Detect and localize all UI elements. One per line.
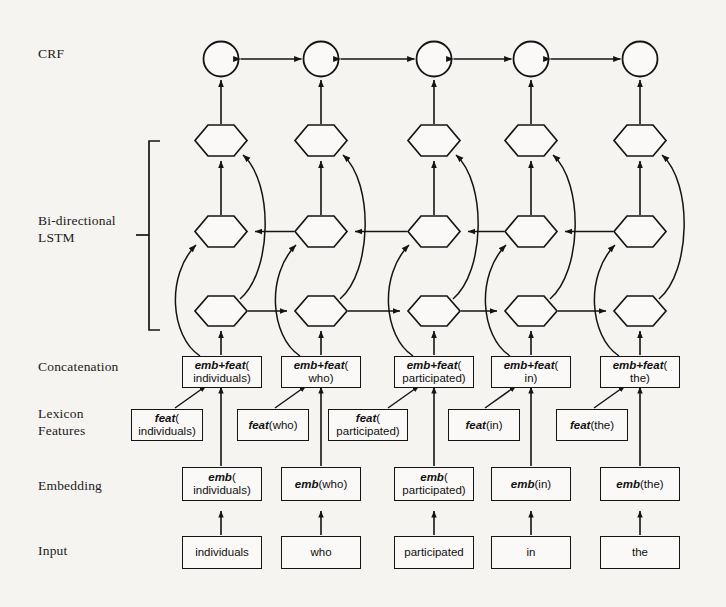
feature-arg-label: the [594,419,610,431]
concat-arg-label: who [309,372,330,384]
concat-arg-label: in [525,372,534,384]
embedding-box[interactable]: emb(the) [600,467,680,501]
concatenation-box[interactable]: emb+feat(in) [491,356,571,388]
diagram-graphics [0,0,726,607]
lstm-backward-node[interactable] [614,216,666,247]
crf-node[interactable] [417,42,452,77]
lstm-top-node[interactable] [505,125,557,156]
embedding-arg-label: participated [402,484,461,496]
embedding-fn-label: emb [420,471,444,483]
embedding-box[interactable]: emb(in) [491,467,571,501]
input-box[interactable]: individuals [182,536,262,569]
figure-canvas: CRF Bi-directional LSTM Concatenation Le… [0,0,726,607]
feature-fn-label: feat [465,419,485,431]
feature-arg-label: individuals [138,425,192,437]
lexicon-feature-box[interactable]: feat(the) [556,409,628,441]
lstm-forward-node[interactable] [408,296,460,326]
concat-fn-label: emb+feat [613,359,664,371]
crf-node[interactable] [304,42,339,77]
lstm-top-node-group [195,125,666,156]
feature-arg-label: participated [336,425,395,437]
embedding-fn-label: emb [295,478,319,490]
embedding-arg-label: individuals [193,484,247,496]
edges-lstm-to-crf [221,80,640,124]
feature-fn-label: feat [248,419,268,431]
feature-arg-label: who [273,419,294,431]
crf-node[interactable] [204,42,239,77]
embedding-arg-label: who [322,478,343,490]
lstm-backward-node[interactable] [505,216,557,247]
input-box[interactable]: participated [394,536,474,569]
lstm-backward-node[interactable] [408,216,460,247]
feature-fn-label: feat [570,419,590,431]
input-box[interactable]: who [281,536,361,569]
feature-fn-label: feat [155,412,175,424]
concat-arg-label: the [630,372,646,384]
feature-fn-label: feat [356,412,376,424]
lstm-backward-node[interactable] [295,216,347,247]
lstm-forward-node[interactable] [505,296,557,326]
lstm-forward-node[interactable] [195,296,247,326]
embedding-fn-label: emb [616,478,640,490]
lstm-forward-node[interactable] [295,296,347,326]
concat-fn-label: emb+feat [504,359,555,371]
concat-fn-label: emb+feat [294,359,345,371]
lexicon-feature-box[interactable]: feat(in) [448,409,520,441]
lexicon-feature-box[interactable]: feat(individuals) [131,409,203,441]
concatenation-box[interactable]: emb+feat(who) [281,356,361,388]
concat-fn-label: emb+feat [195,359,246,371]
concatenation-box[interactable]: emb+feat(the) [600,356,680,388]
edges-concat-to-forward [221,331,640,355]
embedding-box[interactable]: emb(who) [281,467,361,501]
embedding-fn-label: emb [511,478,535,490]
edges-concat-to-backward [175,245,619,356]
embedding-fn-label: emb [208,471,232,483]
lexicon-feature-box[interactable]: feat(participated) [328,409,408,441]
lstm-backward-node[interactable] [195,216,247,247]
lexicon-feature-box[interactable]: feat(who) [237,409,309,441]
input-box[interactable]: in [491,536,571,569]
embedding-arg-label: in [538,478,547,490]
concat-arg-label: individuals [193,372,247,384]
lstm-top-node[interactable] [408,125,460,156]
embedding-box[interactable]: emb(participated) [394,467,474,501]
input-box[interactable]: the [600,536,680,569]
edges-input-to-embedding [221,511,640,535]
embedding-arg-label: the [644,478,660,490]
concat-fn-label: emb+feat [407,359,458,371]
edges-backward-to-top [221,161,640,215]
concatenation-box[interactable]: emb+feat(participated) [394,356,474,388]
crf-node[interactable] [514,42,549,77]
concat-arg-label: participated [402,372,461,384]
edges-feature-to-concat [175,386,625,408]
bilstm-bracket [136,141,160,330]
lstm-top-node[interactable] [614,125,666,156]
lstm-top-node[interactable] [295,125,347,156]
embedding-box[interactable]: emb(individuals) [182,467,262,501]
feature-arg-label: in [490,419,499,431]
crf-node[interactable] [623,42,658,77]
lstm-forward-node[interactable] [614,296,666,326]
concatenation-box[interactable]: emb+feat(individuals) [182,356,262,388]
lstm-top-node[interactable] [195,125,247,156]
